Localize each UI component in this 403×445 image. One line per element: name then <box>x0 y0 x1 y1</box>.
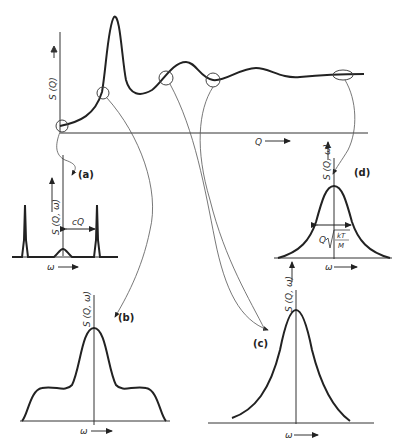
inset-c-spectrum <box>232 310 350 421</box>
region-circle-c <box>159 71 173 85</box>
main-plot: S (Q) Q <box>48 17 368 147</box>
inset-c-tag: (c) <box>253 338 268 349</box>
connector-c <box>170 84 268 330</box>
main-x-label: Q <box>255 137 262 147</box>
connector-b <box>107 98 153 317</box>
inset-a: S (Q, ω) ω (a) cQ <box>12 155 118 272</box>
main-y-label: S (Q) <box>48 77 58 100</box>
inset-c-x-label: ω <box>285 430 293 440</box>
inset-d: S (Q, ω) ω (d) Q kT M <box>274 142 392 272</box>
connector-d <box>333 80 355 174</box>
inset-a-tag: (a) <box>78 169 94 180</box>
inset-a-y-label: S (Q, ω) <box>51 199 61 235</box>
inset-a-spectrum <box>12 205 118 257</box>
s-of-q-curve <box>60 17 364 126</box>
inset-d-tag: (d) <box>354 167 370 178</box>
inset-a-x-label: ω <box>47 262 55 272</box>
inset-b-tag: (b) <box>118 312 134 323</box>
connector-c2 <box>200 87 265 330</box>
structure-factor-diagram: S (Q) Q S (Q, ω) ω (a) cQ S (Q, ω) <box>0 0 403 445</box>
inset-d-x-label: ω <box>325 262 333 272</box>
inset-d-annotation-num: kT <box>337 232 346 240</box>
inset-c: S (Q, ω) ω (c) <box>208 262 374 440</box>
main-y-arrow-icon <box>51 46 57 58</box>
connector-a <box>57 132 76 175</box>
connectors <box>57 80 355 330</box>
inset-d-annotation-den: M <box>338 242 344 250</box>
inset-b-x-label: ω <box>80 426 88 436</box>
inset-d-y-label: S (Q, ω) <box>322 144 332 180</box>
inset-d-annotation-q: Q <box>319 235 326 245</box>
inset-b-y-label: S (Q, ω) <box>82 291 92 327</box>
inset-b: S (Q, ω) ω (b) <box>20 291 170 436</box>
inset-a-annotation: cQ <box>72 217 84 227</box>
